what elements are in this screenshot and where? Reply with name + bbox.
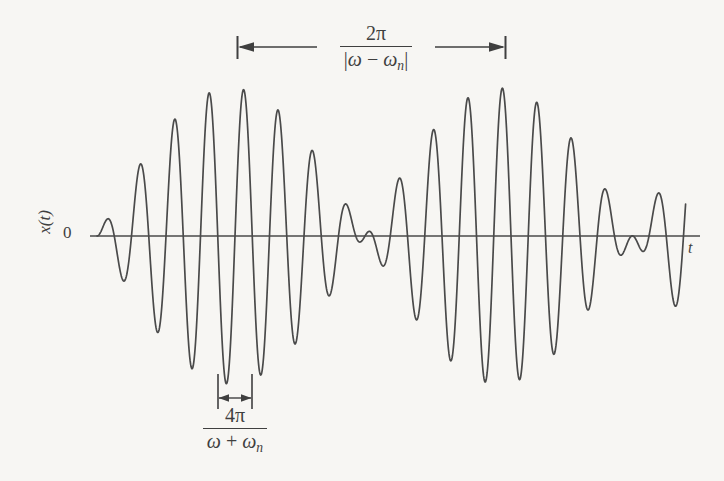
carrier-arrowhead-left <box>219 394 230 402</box>
omega-symbol: ω <box>348 48 362 70</box>
beat-denominator: |ω − ωn| <box>340 46 412 74</box>
beat-arrowhead-left <box>238 42 254 52</box>
y-axis-label: x(t) <box>35 199 55 245</box>
beat-arrowhead-right <box>489 42 505 52</box>
origin-label: 0 <box>63 223 72 243</box>
carrier-numerator: 4π <box>221 404 249 428</box>
beat-period-label: 2π |ω − ωn| <box>317 22 435 74</box>
carrier-denominator: ω + ωn <box>203 428 267 456</box>
x-axis-label: t <box>688 239 692 257</box>
carrier-arrowhead-right <box>241 394 252 402</box>
omega-n-symbol: ω <box>383 48 397 70</box>
minus-symbol: − <box>367 48 378 70</box>
abs-close: | <box>404 48 408 70</box>
carrier-period-label: 4π ω + ωn <box>182 404 288 456</box>
beat-numerator: 2π <box>362 22 390 46</box>
carrier-omega-n-symbol: ω <box>242 430 256 452</box>
carrier-omega-subscript-n: n <box>256 440 263 455</box>
carrier-omega-symbol: ω <box>207 430 221 452</box>
plus-symbol: + <box>226 430 237 452</box>
